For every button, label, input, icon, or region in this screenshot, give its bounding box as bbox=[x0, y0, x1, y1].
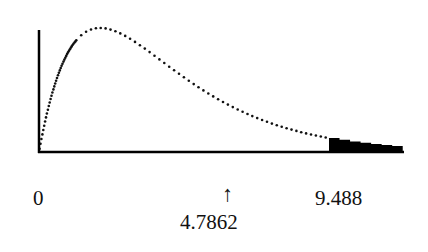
x-tick-critical-value: 9.488 bbox=[315, 188, 362, 209]
rejection-region bbox=[329, 138, 403, 152]
x-tick-zero: 0 bbox=[33, 188, 44, 209]
test-statistic-label: 4.7862 bbox=[180, 212, 238, 233]
density-curve bbox=[38, 27, 327, 150]
arrow-up-icon: ↑ bbox=[222, 183, 233, 205]
